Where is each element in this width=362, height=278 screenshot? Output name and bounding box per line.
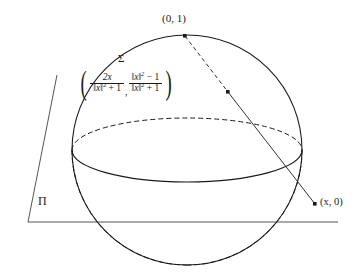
sphere-label-sigma: Σ bbox=[118, 52, 124, 64]
formula-first-den-tail: + 1 bbox=[106, 83, 121, 93]
image-point-label: (x, 0) bbox=[320, 196, 343, 207]
formula-second-den-tail: + 1 bbox=[144, 83, 159, 93]
equator-back-arc bbox=[72, 118, 302, 150]
formula-second-numerator: ‖x‖2 − 1 bbox=[129, 73, 163, 83]
formula-first-fraction: 2x ‖x‖2 + 1 bbox=[90, 73, 124, 94]
plane-label-pi: Π bbox=[38, 194, 47, 209]
projection-ray-dashed-segment bbox=[185, 36, 228, 92]
projected-point-marker bbox=[226, 90, 230, 94]
formula-open-paren: ( bbox=[81, 68, 87, 98]
formula-close-paren: ) bbox=[166, 68, 172, 98]
formula-second-num-tail: − 1 bbox=[144, 72, 159, 82]
formula-second-den-norm: ‖x‖ bbox=[132, 83, 142, 93]
formula-second-num-norm: ‖x‖ bbox=[132, 72, 142, 82]
formula-second-fraction: ‖x‖2 − 1 ‖x‖2 + 1 bbox=[129, 73, 163, 94]
formula-second-denominator: ‖x‖2 + 1 bbox=[129, 83, 163, 94]
stereographic-projection-figure bbox=[0, 0, 362, 278]
equator-front-arc bbox=[72, 150, 302, 182]
formula-first-denominator: ‖x‖2 + 1 bbox=[90, 83, 124, 94]
formula-first-den-norm: ‖x‖ bbox=[93, 83, 103, 93]
projection-formula: ( 2x ‖x‖2 + 1 , ‖x‖2 − 1 ‖x‖2 + 1 ) bbox=[78, 68, 175, 98]
image-point-marker bbox=[313, 202, 317, 206]
formula-comma: , bbox=[125, 87, 128, 98]
equator-ellipse bbox=[72, 118, 302, 182]
north-pole-marker bbox=[183, 34, 187, 38]
north-pole-label: (0, 1) bbox=[162, 12, 186, 24]
plane-pi bbox=[28, 75, 338, 222]
